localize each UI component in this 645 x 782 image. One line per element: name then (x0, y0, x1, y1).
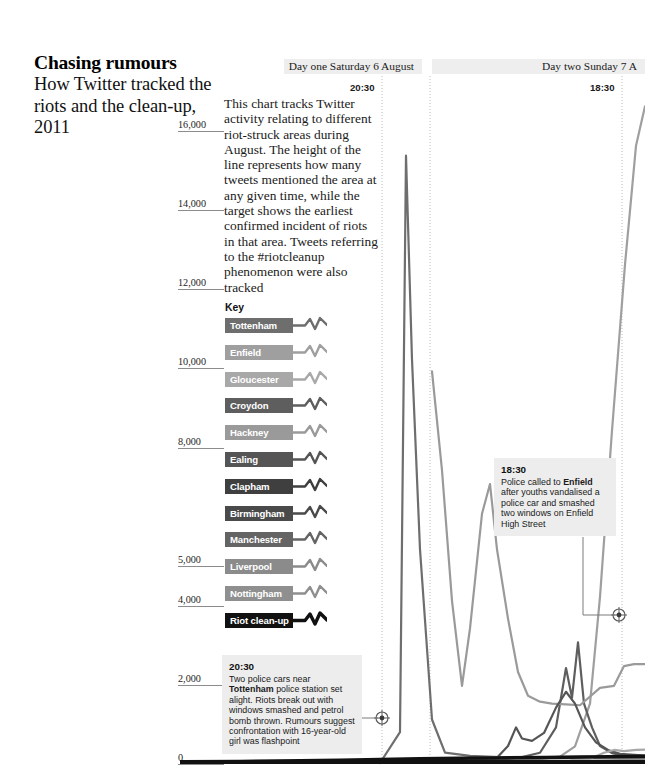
key-item-label: Hackney (225, 425, 293, 440)
y-axis-label: 16,000 (178, 119, 224, 132)
key-item-label: Tottenham (225, 318, 293, 333)
series-line (430, 642, 645, 761)
target-marker-icon (611, 607, 627, 623)
callout-2030-time: 20:30 (229, 661, 355, 672)
key-line-sample-icon (291, 529, 327, 550)
axis-baseline (180, 760, 645, 764)
key-line-sample-icon (291, 556, 327, 577)
key-item-label: Clapham (225, 479, 293, 494)
callout-2030: 20:30 Two police cars near Tottenham pol… (222, 655, 362, 754)
series-line (432, 371, 645, 705)
y-axis-label: 8,000 (178, 436, 224, 449)
day-band-two-label: Day two Sunday 7 A (542, 60, 637, 72)
key-line-sample-icon (291, 369, 327, 390)
intro-paragraph: This chart tracks Twitter activity relat… (224, 96, 378, 295)
key-line-sample-icon (291, 449, 327, 470)
callout-2030-body: Two police cars near Tottenham police st… (229, 674, 355, 747)
key-item-label: Enfield (225, 345, 293, 360)
callout-1830-text-after: after youths vandalised a police car and… (501, 487, 600, 528)
series-line (430, 692, 645, 762)
key-line-sample-icon (291, 395, 327, 416)
key-item-label: Nottingham (225, 586, 293, 601)
y-axis-label: 2,000 (178, 673, 224, 686)
y-axis-label: 4,000 (178, 594, 224, 607)
y-axis-label: 10,000 (178, 356, 224, 369)
callout-1830-bold: Enfield (563, 477, 593, 487)
callout-1830-time: 18:30 (501, 464, 609, 475)
callout-2030-text-before: Two police cars near (229, 674, 310, 684)
y-axis-label: 12,000 (178, 277, 224, 290)
key-line-sample-icon (291, 342, 327, 363)
key-item-label: Manchester (225, 532, 293, 547)
day-band-two: Day two Sunday 7 A (432, 59, 645, 74)
key-line-sample-icon (291, 610, 327, 631)
time-tick-2030: 20:30 (350, 82, 375, 93)
callout-1830: 18:30 Police called to Enfield after you… (494, 458, 616, 536)
series-line (430, 106, 645, 760)
target-marker-icon (374, 710, 390, 726)
key-line-sample-icon (291, 422, 327, 443)
key-line-sample-icon (291, 476, 327, 497)
key-line-sample-icon (291, 315, 327, 336)
time-tick-1830: 18:30 (590, 82, 615, 93)
key-title: Key (225, 302, 244, 313)
key-line-sample-icon (291, 503, 327, 524)
key-item-label: Riot clean-up (225, 613, 293, 628)
callout-1830-body: Police called to Enfield after youths va… (501, 477, 609, 529)
key-line-sample-icon (291, 583, 327, 604)
key-item-label: Croydon (225, 398, 293, 413)
page-title: Chasing rumours (34, 52, 214, 73)
key-item-label: Ealing (225, 452, 293, 467)
infographic-canvas: Chasing rumours How Twitter tracked the … (0, 0, 645, 782)
callout-2030-bold: Tottenham (229, 684, 274, 694)
key-item-label: Liverpool (225, 559, 293, 574)
callout-1830-text-before: Police called to (501, 477, 563, 487)
day-band-one-label: Day one Saturday 6 August (289, 60, 414, 72)
y-axis-label: 14,000 (178, 198, 224, 211)
key-item-label: Gloucester (225, 372, 293, 387)
day-band-one: Day one Saturday 6 August (284, 59, 422, 74)
y-axis-label: 5,000 (178, 554, 224, 567)
key-item-label: Birmingham (225, 506, 293, 521)
